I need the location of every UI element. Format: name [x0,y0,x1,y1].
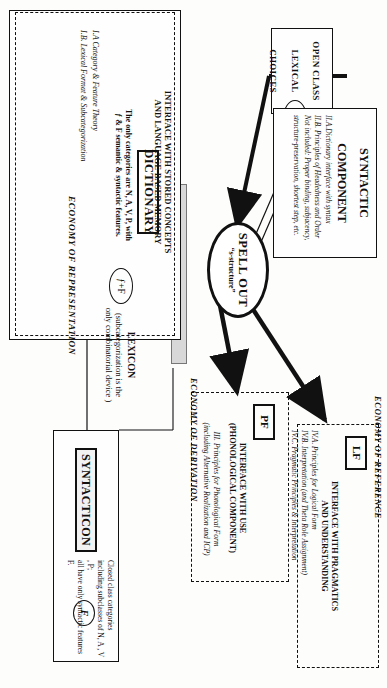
lf-item-1: IV.B. Interpretation (and Theta Role Ass… [299,430,309,664]
syntactic-component-title-line2: COMPONENT [333,109,355,257]
lexicon-title: LEXICON [125,290,138,420]
dictionary-item-0: I.A Category & Feature Theory [89,30,101,320]
diagram-canvas: OPEN CLASS LEXICAL CHOICES ƒ+F SYNTACTIC… [0,0,387,688]
spell-out-subtitle: “s-structure” [227,247,236,292]
lf-heading-line2: AND UNDERSTANDING [319,432,329,660]
economy-of-representation-label: ECONOMY OF REPRESENTATION [67,196,77,355]
lf-label: LF [350,446,362,460]
pf-label: PF [258,415,270,428]
pf-box[interactable]: PF [253,404,275,440]
syntactic-component-title-line1: SYNTACTIC [354,109,376,257]
dictionary-items: I.A Category & Feature Theory I.B. Lexic… [78,30,101,320]
spell-out-title: SPELL OUT [236,233,249,308]
syntactic-component-box[interactable]: SYNTACTIC COMPONENT II.A.Dictionary inte… [273,108,377,258]
spine-openclass-to-spellout [237,76,269,226]
lf-box[interactable]: LF [345,436,367,470]
pf-item-1: (including Alternative Realization and I… [201,400,211,578]
open-class-lexical-choices-box[interactable]: OPEN CLASS LEXICAL CHOICES [271,28,333,114]
syntactic-component-item-0: II.A.Dictionary interface with syntax [322,109,333,257]
dictionary-box[interactable]: DICTIONARY [137,150,159,234]
lexicon-note-line2: only combinatorial device ) [103,290,114,420]
F-marker-syntacticon: F [73,600,95,626]
dictionary-note-line1: The only categories are N, A, V, P, with [123,36,133,314]
pf-heading-line1: INTERFACE WITH USE [237,400,247,576]
economy-of-derivation-label: ECONOMY OF DERIVATION [189,378,199,502]
syntacticon-label: SYNTACTICON [80,454,93,546]
lf-heading-line1: INTERFACE WITH PRAGMATICS [329,432,339,660]
lexicon-caption: LEXICON (subcategorization is the only c… [103,290,137,420]
syntacticon-box[interactable]: SYNTACTICON [75,448,97,552]
dictionary-heading-line1: INTERFACE WITH STORED CONCEPTS [163,22,173,322]
pf-items: III. Principles for Phonological Form (i… [201,400,222,578]
dictionary-label: DICTIONARY [141,149,154,235]
economy-of-reference-label: ECONOMY OF REFERENCE [373,396,383,519]
lf-items: IV.A. Principles for Logical Form IV.B. … [288,430,319,664]
spell-out-node[interactable]: SPELL OUT “s-structure” [207,222,269,318]
dictionary-note: The only categories are N, A, V, P, with… [113,36,133,314]
lf-heading: INTERFACE WITH PRAGMATICS AND UNDERSTAND… [319,432,339,660]
pf-item-0: III. Principles for Phonological Form [211,400,221,578]
dictionary-note-line2: ƒ & F semantic & syntactic features. [113,36,123,314]
lf-item-2: IV.C. Pragmatic Principles & Interpretat… [288,430,298,664]
pf-heading-line2: (PHONOLOGICAL COMPONENT) [227,400,237,576]
syntactic-component-item-2: Not included: Proper binding, subjacency… [301,109,312,257]
lexicon-note-line1: (subcategorization is the [114,290,125,420]
lf-item-0: IV.A. Principles for Logical Form [309,430,319,664]
open-class-line1: OPEN CLASS [311,29,332,113]
open-class-line3: CHOICES [268,29,289,113]
syntacticon-note-line1: Closed class categories [105,560,115,658]
syntactic-component-item-1: II.B. Principles of Headedness and Order [312,109,323,257]
dictionary-item-1: I.B. Lexical Format & Subcategorization [78,30,90,320]
pf-heading: INTERFACE WITH USE (PHONOLOGICAL COMPONE… [227,400,247,576]
syntactic-component-item-3: structure-preservation, shortest step, e… [291,109,302,257]
